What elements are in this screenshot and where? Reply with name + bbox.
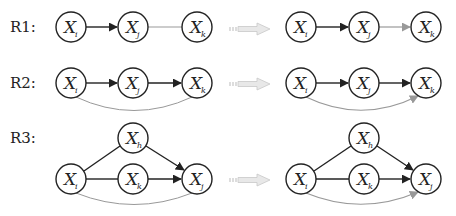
- node-r2-left-xk: Xk: [182, 68, 212, 98]
- node-r2-right-xj: Xj: [349, 68, 379, 98]
- svg-text:h: h: [368, 141, 373, 150]
- edge-h-j: [377, 146, 413, 170]
- node-r1-left-xi: Xi: [56, 12, 86, 42]
- edge-i-k-undirected: [76, 97, 192, 111]
- nodes-layer: XiXjXkXiXjXkXiXjXkXiXjXkXhXiXkXjXhXiXkXj: [56, 12, 441, 194]
- svg-text:k: k: [368, 182, 373, 191]
- svg-text:i: i: [75, 30, 78, 39]
- node-r1-right-xi: Xi: [286, 12, 316, 42]
- node-r3-right-xk: Xk: [349, 164, 379, 194]
- svg-text:k: k: [201, 86, 206, 95]
- node-r3-left-xj: Xj: [182, 164, 212, 194]
- transform-arrow-icon-r2: [229, 78, 270, 90]
- rule-label-r1: R1:: [10, 18, 36, 36]
- rules-diagram: R1: R2: R3: XiXjXkXi: [0, 0, 456, 216]
- edge-i-j-undirected: [76, 193, 192, 205]
- node-r3-right-xh: Xh: [349, 123, 379, 153]
- node-r3-right-xi: Xi: [286, 164, 316, 194]
- node-r3-left-xi: Xi: [56, 164, 86, 194]
- svg-text:i: i: [305, 182, 308, 191]
- node-r1-left-xk: Xk: [182, 12, 212, 42]
- svg-text:i: i: [305, 86, 308, 95]
- svg-text:k: k: [201, 30, 206, 39]
- svg-text:k: k: [137, 182, 142, 191]
- node-r1-left-xj: Xj: [118, 12, 148, 42]
- rule-label-r2: R2:: [10, 74, 36, 92]
- svg-text:h: h: [137, 141, 142, 150]
- node-r2-right-xk: Xk: [411, 68, 441, 98]
- node-r3-left-xh: Xh: [118, 123, 148, 153]
- node-r2-right-xi: Xi: [286, 68, 316, 98]
- node-r1-right-xk: Xk: [411, 12, 441, 42]
- node-r1-right-xj: Xj: [349, 12, 379, 42]
- svg-text:k: k: [430, 86, 435, 95]
- svg-text:k: k: [430, 30, 435, 39]
- edge-i-h-undirected: [84, 146, 120, 171]
- rule-label-r3: R3:: [10, 129, 36, 147]
- edge-i-h-undirected: [314, 146, 351, 171]
- svg-text:i: i: [305, 30, 308, 39]
- node-r3-right-xj: Xj: [411, 164, 441, 194]
- transform-arrow-icon-r3: [229, 174, 270, 186]
- node-r3-left-xk: Xk: [118, 164, 148, 194]
- node-r2-left-xi: Xi: [56, 68, 86, 98]
- svg-text:i: i: [75, 182, 78, 191]
- node-r2-left-xj: Xj: [118, 68, 148, 98]
- svg-text:i: i: [75, 86, 78, 95]
- transform-arrow-icon-r1: [229, 23, 270, 35]
- edge-h-j: [146, 146, 184, 170]
